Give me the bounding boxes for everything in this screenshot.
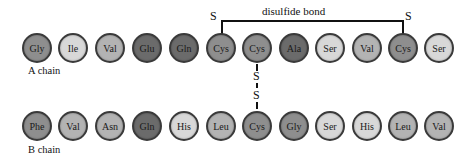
- sulfur-label-bottom: S: [253, 88, 260, 103]
- residue-cys: Cys: [242, 111, 272, 141]
- residue-ser: Ser: [315, 111, 345, 141]
- residue-val: Val: [352, 33, 382, 63]
- interchain-bond-lower: [256, 102, 258, 109]
- residue-asn: Asn: [95, 111, 125, 141]
- residue-gly: Gly: [279, 111, 309, 141]
- residue-ser: Ser: [424, 33, 454, 63]
- residue-glu: Glu: [132, 33, 162, 63]
- a-chain-label: A chain: [28, 65, 60, 76]
- residue-gln: Gln: [132, 111, 162, 141]
- bond-vertical-left: [221, 20, 223, 34]
- residue-phe: Phe: [22, 111, 52, 141]
- residue-his: His: [169, 111, 199, 141]
- sulfur-label-right: S: [405, 9, 412, 24]
- disulfide-bond-label: disulfide bond: [262, 5, 325, 17]
- residue-his: His: [352, 111, 382, 141]
- residue-gln: Gln: [169, 33, 199, 63]
- residue-ala: Ala: [279, 33, 309, 63]
- residue-cys: Cys: [206, 33, 236, 63]
- insulin-chain-diagram: S S disulfide bond S S GlyIleValGluGlnCy…: [0, 0, 476, 162]
- residue-val: Val: [95, 33, 125, 63]
- bond-horizontal: [221, 20, 404, 22]
- residue-ile: Ile: [58, 33, 88, 63]
- b-chain-label: B chain: [28, 144, 60, 155]
- sulfur-label-top: S: [253, 69, 260, 84]
- residue-cys: Cys: [388, 33, 418, 63]
- bond-vertical-right: [402, 20, 404, 34]
- residue-leu: Leu: [206, 111, 236, 141]
- residue-val: Val: [424, 111, 454, 141]
- sulfur-label-left: S: [210, 9, 217, 24]
- residue-ser: Ser: [315, 33, 345, 63]
- residue-cys: Cys: [242, 33, 272, 63]
- residue-val: Val: [58, 111, 88, 141]
- residue-leu: Leu: [388, 111, 418, 141]
- residue-gly: Gly: [22, 33, 52, 63]
